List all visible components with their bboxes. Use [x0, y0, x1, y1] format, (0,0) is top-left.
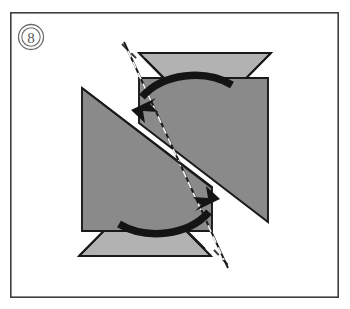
fold-extension-top-left: [122, 44, 137, 59]
step-number-badge: 8: [19, 25, 44, 50]
badge-number: 8: [27, 30, 35, 46]
origami-step-figure: 8: [0, 0, 350, 309]
figure-canvas: 8: [0, 0, 350, 309]
